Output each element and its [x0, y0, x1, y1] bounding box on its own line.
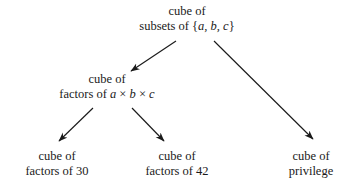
node-factors-line1: cube of	[40, 72, 174, 87]
node-factors-var-c: c	[149, 87, 155, 101]
node-root-line2-prefix: subsets of {	[139, 19, 198, 33]
node-cube-of-privilege: cube of privilege	[262, 149, 360, 179]
node-factors-line2: factors of a × b × c	[40, 87, 174, 102]
node-cube-of-factors-abc: cube of factors of a × b × c	[40, 72, 174, 102]
node-factors-line2-prefix: factors of	[59, 87, 110, 101]
arrow-root-to-factors	[131, 41, 176, 71]
node-f30-line1: cube of	[4, 149, 110, 164]
node-cube-of-factors-30: cube of factors of 30	[4, 149, 110, 179]
node-factors-times-1: ×	[116, 87, 129, 101]
node-root-line2: subsets of {a, b, c}	[128, 19, 246, 34]
node-f30-line2: factors of 30	[4, 164, 110, 179]
node-cube-of-subsets: cube of subsets of {a, b, c}	[128, 4, 246, 34]
arrow-factors-to-30	[59, 108, 93, 141]
node-factors-times-2: ×	[136, 87, 149, 101]
node-priv-line2: privilege	[262, 164, 360, 179]
node-cube-of-factors-42: cube of factors of 42	[124, 149, 230, 179]
node-root-line2-suffix: }	[229, 19, 235, 33]
node-f42-line2: factors of 42	[124, 164, 230, 179]
node-root-line1: cube of	[128, 4, 246, 19]
arrow-factors-to-42	[132, 108, 164, 141]
diagram-canvas: cube of subsets of {a, b, c} cube of fac…	[0, 0, 363, 188]
node-f42-line1: cube of	[124, 149, 230, 164]
node-root-line2-vars: a, b, c	[198, 19, 229, 33]
arrow-root-to-privilege	[214, 41, 313, 139]
node-priv-line1: cube of	[262, 149, 360, 164]
